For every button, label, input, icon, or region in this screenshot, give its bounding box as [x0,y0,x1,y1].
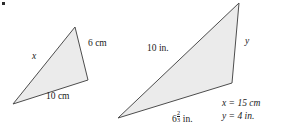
similar-triangles-figure: x 6 cm 10 cm 10 in. y 623 in. x = 15 cm … [0,0,283,134]
small-triangle-side-x-label: x [32,52,36,62]
fraction-denominator: 3 [177,116,180,123]
answer-legend: x = 15 cm y = 4 in. [222,97,260,123]
large-triangle-side-10in-label: 10 in. [147,44,169,54]
legend-line-y: y = 4 in. [222,110,260,123]
mixed-number-whole: 6 [172,114,177,124]
large-triangle-side-bottom-label: 623 in. [172,110,193,125]
mixed-number-unit: in. [183,114,193,124]
mixed-number-fraction: 23 [177,110,180,124]
large-triangle-shape [118,3,239,118]
small-triangle-side-6cm-label: 6 cm [88,39,107,49]
small-triangle-side-10cm-label: 10 cm [46,92,69,102]
legend-line-x: x = 15 cm [222,97,260,110]
large-triangle-side-y-label: y [245,37,249,47]
